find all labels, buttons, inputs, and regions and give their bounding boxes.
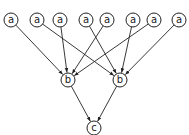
node-a4: a bbox=[79, 13, 93, 27]
node-b2: b bbox=[113, 73, 127, 87]
node-label: a bbox=[151, 14, 157, 25]
node-a8: a bbox=[172, 13, 186, 27]
node-a3: a bbox=[53, 13, 67, 27]
edge-a8-to-b2 bbox=[125, 25, 174, 75]
edge-a6-to-b2 bbox=[122, 27, 132, 73]
node-label: a bbox=[83, 14, 89, 25]
edge-a3-to-b1 bbox=[61, 27, 67, 73]
node-a7: a bbox=[147, 13, 161, 27]
graph-diagram: aaaaaaaabbc bbox=[0, 0, 189, 135]
nodes-layer: aaaaaaaabbc bbox=[4, 13, 186, 135]
node-label: b bbox=[117, 74, 123, 85]
node-a1: a bbox=[4, 13, 18, 27]
node-label: a bbox=[130, 14, 136, 25]
node-a2: a bbox=[30, 13, 44, 27]
edge-b1-to-c1 bbox=[71, 86, 90, 121]
node-label: a bbox=[57, 14, 63, 25]
edge-a7-to-b1 bbox=[74, 24, 148, 76]
edge-a4-to-b2 bbox=[89, 26, 116, 73]
node-label: b bbox=[65, 74, 71, 85]
node-label: a bbox=[8, 14, 14, 25]
edge-b2-to-c1 bbox=[98, 86, 117, 121]
node-label: a bbox=[34, 14, 40, 25]
edges-layer bbox=[16, 24, 174, 121]
node-label: a bbox=[176, 14, 182, 25]
node-c1: c bbox=[87, 121, 101, 135]
node-a6: a bbox=[126, 13, 140, 27]
node-label: c bbox=[91, 122, 97, 133]
node-label: a bbox=[104, 14, 110, 25]
node-a5: a bbox=[100, 13, 114, 27]
node-b1: b bbox=[61, 73, 75, 87]
edge-a1-to-b1 bbox=[16, 25, 63, 74]
